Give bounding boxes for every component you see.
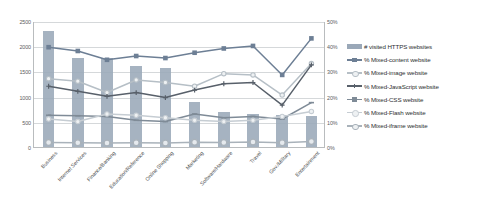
x-axis-label: Finance/Banking [86,150,117,182]
data-point-marker [309,109,313,113]
legend-item[interactable]: % Mixed-CSS website [347,93,475,106]
line-series [46,139,315,146]
x-axis-label: Online Shopping [144,150,175,182]
y-axis-left-tick: 1500 [19,72,31,78]
data-point-marker [192,118,196,122]
legend-item[interactable]: % Mixed-image website [347,66,475,79]
legend-swatch-icon [347,109,362,116]
data-point-marker [250,116,255,118]
data-point-marker [46,45,51,50]
legend-item[interactable]: % Mixed-content website [347,53,475,66]
y-axis-left-tick: 0 [28,148,31,154]
y-axis-left-tick: 500 [22,123,31,129]
legend-item-label: % Mixed-image website [364,69,427,76]
data-point-marker [221,140,227,146]
data-point-marker [309,36,314,41]
data-point-marker [192,139,198,145]
x-axis-label: Entertainment [294,150,320,178]
data-point-marker [46,77,50,81]
data-point-marker [251,44,256,49]
legend-item-label: % Mixed-content website [364,56,430,63]
chart-container: 05001000150020002500 0%10%20%30%40%50% B… [0,0,478,213]
legend-item-label: % Mixed-JavaScript website [364,83,439,90]
data-point-marker [76,49,81,54]
data-point-marker [46,84,51,89]
data-point-marker [222,119,226,123]
data-point-marker [279,140,285,146]
legend-swatch-icon [347,122,362,129]
legend-item-label: % Mixed-CSS website [364,96,423,103]
data-point-marker [222,46,227,51]
x-axis-label: Travel [248,150,262,165]
data-point-marker [222,71,226,75]
legend-swatch-icon [347,56,362,63]
data-point-marker [309,102,314,104]
data-point-marker [134,90,139,95]
data-point-marker [163,56,168,61]
data-point-marker [133,140,139,146]
legend-swatch-icon [347,96,362,103]
x-axis-label: Software/Hardware [198,150,233,187]
data-point-marker [163,116,167,120]
legend-item[interactable]: % Mixed-JavaScript website [347,80,475,93]
x-axis-label: Business [39,150,58,170]
data-point-marker [163,140,169,146]
data-point-marker [280,114,284,118]
data-point-marker [76,119,80,123]
data-point-marker [134,113,138,117]
line-series-group [34,22,326,148]
data-point-marker [192,113,197,115]
legend-item[interactable]: # visited HTTPS websites [347,40,475,53]
legend-swatch-icon [347,83,362,90]
legend-swatch-icon [347,69,362,76]
y-axis-left-tick: 2500 [19,22,31,28]
data-point-marker [309,139,315,145]
legend-item-label: % Mixed-Flash website [364,109,426,116]
y-axis-right-tick: 50% [327,22,338,28]
data-point-marker [280,73,285,78]
data-point-marker [251,73,255,77]
x-axis-label: Gov./Military [268,150,292,175]
chart-legend: # visited HTTPS websites% Mixed-content … [347,40,475,132]
data-point-marker [46,140,52,146]
legend-swatch-icon [347,44,362,50]
x-axis-labels: BusinessInternet ServicesFinance/Banking… [33,150,325,210]
legend-item[interactable]: % Mixed-Flash website [347,106,475,119]
y-axis-right-tick: 40% [327,47,338,53]
data-point-marker [280,93,284,97]
data-point-marker [134,54,139,59]
y-axis-right-tick: 0% [327,148,335,154]
legend-item-label: % Mixed-iframe website [364,122,427,129]
y-axis-right-tick: 20% [327,98,338,104]
data-point-marker [46,117,50,121]
y-axis-right-tick: 10% [327,123,338,129]
data-point-marker [75,140,81,146]
data-point-marker [76,79,80,83]
data-point-marker [251,118,255,122]
y-axis-left-tick: 2000 [19,47,31,53]
data-point-marker [105,58,110,63]
plot-area: 05001000150020002500 0%10%20%30%40%50% [33,22,325,148]
data-point-marker [163,95,168,100]
y-axis-left-tick: 1000 [19,98,31,104]
data-point-marker [221,81,226,86]
data-point-marker [134,119,139,121]
data-point-marker [105,112,109,116]
data-point-marker [104,140,110,146]
y-axis-right-tick: 30% [327,72,338,78]
data-point-marker [163,80,167,84]
data-point-marker [75,89,80,94]
data-point-marker [134,78,138,82]
legend-item-label: # visited HTTPS websites [364,43,432,50]
x-axis-label: Internet Services [56,150,87,183]
legend-item[interactable]: % Mixed-iframe website [347,119,475,132]
data-point-marker [46,114,51,116]
line-series [46,36,313,77]
data-point-marker [250,139,256,145]
data-point-marker [75,115,80,117]
data-point-marker [192,50,197,55]
data-point-marker [221,117,226,119]
x-axis-label: Marketing [184,150,204,171]
data-point-marker [163,121,168,123]
